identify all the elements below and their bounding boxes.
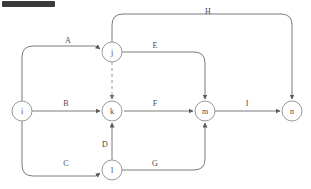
edges-layer <box>22 14 292 176</box>
edge-label-F: F <box>153 99 158 108</box>
node-l[interactable]: l <box>102 160 122 180</box>
edge-label-G: G <box>152 159 158 168</box>
node-m[interactable]: m <box>195 101 215 121</box>
edge-label-E: E <box>153 41 158 50</box>
edge-C <box>22 121 100 176</box>
node-label-k: k <box>110 107 114 116</box>
node-label-n: n <box>290 107 294 116</box>
edge-label-H: H <box>205 7 211 16</box>
edge-label-B: B <box>63 99 68 108</box>
diagram-canvas: ijklmn ABCDEFGHI <box>0 0 311 189</box>
edge-E <box>122 52 205 99</box>
edge-label-D: D <box>102 140 108 149</box>
edge-A <box>22 46 100 101</box>
edge-label-I: I <box>246 99 249 108</box>
edge-label-A: A <box>65 36 71 45</box>
node-i[interactable]: i <box>12 101 32 121</box>
node-n[interactable]: n <box>282 101 302 121</box>
node-label-m: m <box>202 107 209 116</box>
edge-H <box>112 14 292 99</box>
edge-label-C: C <box>63 159 68 168</box>
edge-labels-layer: ABCDEFGHI <box>63 7 248 168</box>
network-diagram: ijklmn ABCDEFGHI <box>0 0 311 189</box>
node-k[interactable]: k <box>102 101 122 121</box>
edge-G <box>122 123 205 170</box>
node-label-j: j <box>110 48 113 57</box>
node-j[interactable]: j <box>102 42 122 62</box>
